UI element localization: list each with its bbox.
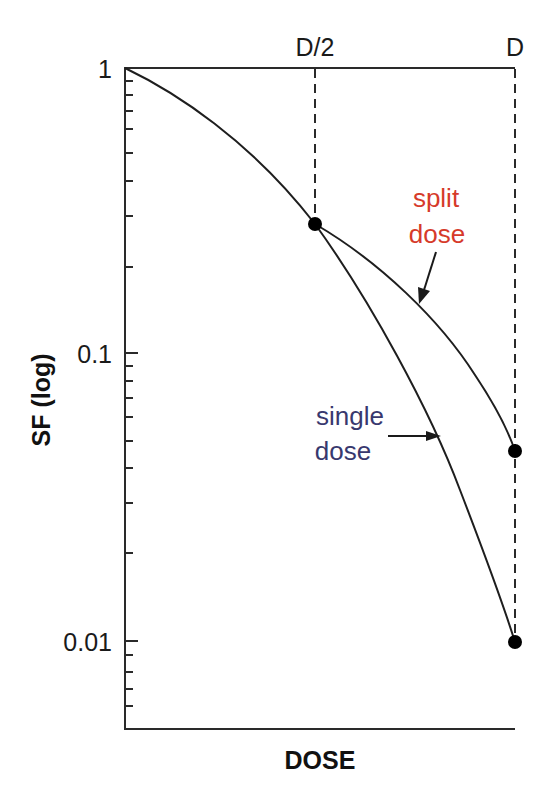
split-dose-label-line1: split — [413, 183, 460, 213]
single-dose-label-line2: dose — [315, 436, 371, 466]
half-dose-label: D/2 — [296, 33, 335, 61]
split-dose-annotation: split dose — [409, 183, 465, 304]
split-dose-label-line2: dose — [409, 219, 465, 249]
x-axis-title: DOSE — [285, 746, 356, 774]
y-tick-label-1: 1 — [98, 55, 112, 83]
single-dose-label-line1: single — [316, 401, 384, 431]
split-dose-arrowhead-icon — [418, 287, 430, 304]
single-dose-end-point — [508, 635, 522, 649]
y-minor-ticks — [125, 81, 133, 706]
y-tick-label-0.01: 0.01 — [63, 628, 112, 656]
y-tick-label-0.1: 0.1 — [77, 340, 112, 368]
full-dose-label: D — [506, 33, 524, 61]
split-dose-end-point — [508, 444, 522, 458]
axes-frame — [124, 68, 515, 729]
single-dose-curve — [125, 68, 515, 642]
split-dose-arrow-icon — [424, 252, 436, 290]
half-dose-point — [308, 217, 322, 231]
single-dose-annotation: single dose — [315, 401, 441, 466]
survival-curve-chart: 1 0.1 0.01 D/2 D SF (log) DOSE split dos… — [0, 0, 557, 799]
y-axis-title: SF (log) — [27, 353, 55, 446]
